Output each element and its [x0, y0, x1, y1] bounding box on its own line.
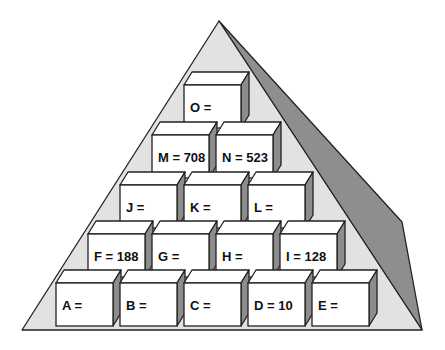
block-label-L: L = — [254, 200, 273, 215]
block-label-G: G = — [158, 249, 180, 264]
block-label-I: I = 128 — [286, 249, 326, 264]
block-top-face — [120, 270, 185, 283]
block-top-face — [312, 270, 377, 283]
block-B: B = — [120, 270, 185, 326]
block-label-C: C = — [190, 298, 211, 313]
block-label-H: H = — [222, 249, 243, 264]
block-top-face — [280, 221, 345, 234]
block-label-N: N = 523 — [222, 150, 268, 165]
block-top-face — [152, 221, 217, 234]
block-top-face — [184, 270, 249, 283]
block-top-face — [88, 221, 153, 234]
block-top-face — [248, 172, 313, 185]
block-D: D = 10 — [248, 270, 313, 326]
block-label-K: K = — [190, 200, 211, 215]
block-K: K = — [184, 172, 249, 228]
block-F: F = 188 — [88, 221, 153, 277]
block-J: J = — [120, 172, 185, 228]
block-top-face — [216, 221, 281, 234]
block-top-face — [184, 72, 249, 85]
block-label-J: J = — [126, 200, 145, 215]
block-M: M = 708 — [152, 122, 217, 178]
block-E: E = — [312, 270, 377, 326]
block-top-face — [152, 122, 217, 135]
block-H: H = — [216, 221, 281, 277]
block-label-O: O = — [190, 100, 212, 115]
block-top-face — [216, 122, 281, 135]
block-G: G = — [152, 221, 217, 277]
block-L: L = — [248, 172, 313, 228]
block-O: O = — [184, 72, 249, 128]
block-A: A = — [56, 270, 121, 326]
block-top-face — [248, 270, 313, 283]
block-C: C = — [184, 270, 249, 326]
block-label-F: F = 188 — [94, 249, 138, 264]
block-label-M: M = 708 — [158, 150, 205, 165]
block-I: I = 128 — [280, 221, 345, 277]
block-label-B: B = — [126, 298, 147, 313]
block-top-face — [184, 172, 249, 185]
number-pyramid-diagram: O =M = 708N = 523J =K =L =F = 188G =H =I… — [0, 0, 445, 350]
block-N: N = 523 — [216, 122, 281, 178]
block-top-face — [120, 172, 185, 185]
block-label-E: E = — [318, 298, 338, 313]
block-label-D: D = 10 — [254, 298, 293, 313]
block-top-face — [56, 270, 121, 283]
block-label-A: A = — [62, 298, 83, 313]
